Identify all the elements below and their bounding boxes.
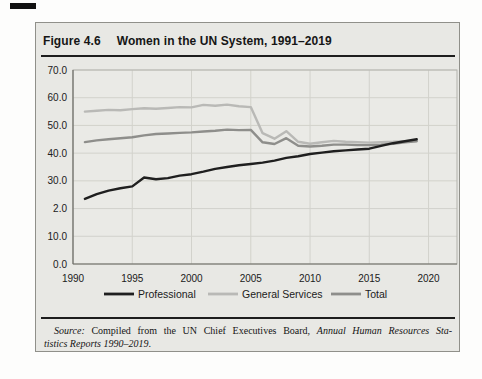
plot-area [73,70,457,264]
chart-svg: 70.060.050.040.030.02.010.00.01990199520… [37,61,461,311]
source-period: . [148,338,151,349]
legend-label-total: Total [365,288,387,300]
y-tick-label: 70.0 [48,65,68,76]
figure-box: Figure 4.6Women in the UN System, 1991–2… [35,22,460,352]
figure-title-text: Women in the UN System, 1991–2019 [117,34,332,48]
x-tick-label: 2020 [417,273,440,284]
source-report-title-2: tistics Reports 1990–2019 [44,338,148,349]
source-line-1: Source: Compiled from the UN Chief Execu… [44,324,452,337]
y-tick-label: 30.0 [48,175,68,186]
y-tick-label: 0.0 [53,259,67,270]
scan-artifact-mark [10,3,36,9]
source-line-2: tistics Reports 1990–2019. [44,337,452,350]
y-tick-label: 10.0 [48,231,68,242]
y-tick-label: 50.0 [48,120,68,131]
source-note: Source: Compiled from the UN Chief Execu… [44,324,452,350]
figure-title: Figure 4.6Women in the UN System, 1991–2… [43,34,453,48]
legend-label-general-services: General Services [242,288,323,300]
x-tick-label: 2015 [358,273,381,284]
source-report-title-1: Annual Human Resources Sta- [317,325,452,336]
y-tick-label: 2.0 [53,203,67,214]
y-tick-label: 60.0 [48,92,68,103]
title-rule [41,55,455,57]
page: { "figure": { "label": "Figure 4.6", "ti… [0,0,482,379]
legend-label-professional: Professional [138,288,196,300]
x-tick-label: 1990 [62,273,85,284]
x-tick-label: 2010 [299,273,322,284]
x-tick-label: 1995 [121,273,144,284]
figure-number: Figure 4.6 [43,34,101,48]
source-rule [41,317,455,319]
source-label: Source: [54,325,85,336]
y-tick-label: 40.0 [48,148,68,159]
source-text: Compiled from the UN Chief Executives Bo… [85,325,317,336]
x-tick-label: 2005 [240,273,263,284]
x-tick-label: 2000 [180,273,203,284]
